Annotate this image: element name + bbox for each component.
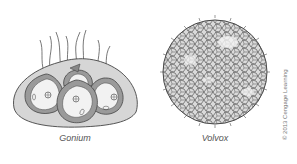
volvox-panel: Volvox bbox=[150, 0, 275, 164]
gonium-illustration bbox=[0, 0, 150, 140]
volvox-illustration bbox=[150, 0, 275, 135]
copyright-credit: © 2013 Cengage Learning bbox=[282, 70, 288, 140]
gonium-panel: Gonium bbox=[0, 0, 150, 164]
volvox-label: Volvox bbox=[185, 133, 245, 143]
gonium-label: Gonium bbox=[45, 133, 105, 143]
